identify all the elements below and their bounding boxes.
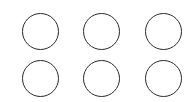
circle-r1-c3 — [145, 13, 182, 50]
circle-r2-c2 — [83, 60, 120, 97]
circle-r1-c1 — [22, 13, 59, 50]
circle-r2-c3 — [145, 60, 182, 97]
circle-r2-c1 — [22, 60, 59, 97]
circle-r1-c2 — [83, 13, 120, 50]
